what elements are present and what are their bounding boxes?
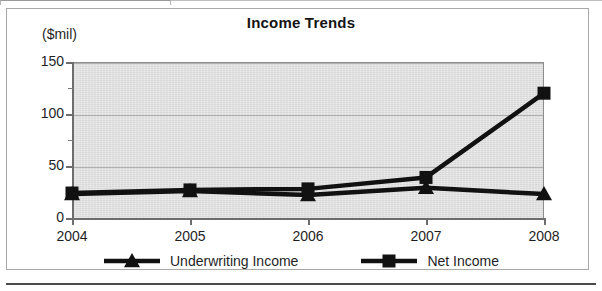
- x-axis-tick-label: 2004: [42, 228, 102, 244]
- gridline: [72, 63, 543, 64]
- x-axis-tick: [426, 218, 428, 225]
- gridline: [72, 115, 543, 116]
- y-axis-tick-label: 100: [0, 105, 64, 121]
- x-axis-tick-label: 2007: [396, 228, 456, 244]
- x-axis-tick-label: 2005: [160, 228, 220, 244]
- page-edge-artifact-right: [171, 0, 602, 2]
- plot-area: [72, 62, 544, 218]
- legend-label: Underwriting Income: [170, 253, 298, 269]
- y-axis-tick: [66, 166, 73, 168]
- y-axis-minor-tick: [68, 140, 73, 141]
- data-point-marker-square: [383, 255, 396, 268]
- legend-label: Net Income: [427, 253, 499, 269]
- x-axis-tick: [72, 218, 74, 225]
- x-axis-tick: [544, 218, 546, 225]
- legend-item: Underwriting Income: [103, 252, 298, 270]
- page-edge-artifact-left: [0, 0, 171, 5]
- bottom-divider-rule: [6, 283, 596, 285]
- x-axis-tick-label: 2008: [514, 228, 574, 244]
- plot-background-texture: [72, 63, 543, 218]
- y-axis-tick-label: 50: [0, 157, 64, 173]
- legend-item: Net Income: [360, 252, 499, 270]
- x-axis-tick-label: 2006: [278, 228, 338, 244]
- chart-legend: Underwriting IncomeNet Income: [0, 252, 602, 270]
- y-axis-tick-label: 150: [0, 53, 64, 69]
- x-axis-tick: [190, 218, 192, 225]
- y-axis-unit-label: ($mil): [42, 26, 77, 42]
- y-axis-tick-label: 0: [0, 209, 64, 225]
- chart-title: Income Trends: [0, 14, 602, 31]
- y-axis-minor-tick: [68, 192, 73, 193]
- y-axis-tick: [66, 62, 73, 64]
- gridline: [72, 167, 543, 168]
- legend-swatch-triangle: [103, 252, 161, 270]
- y-axis-tick: [66, 114, 73, 116]
- x-axis-tick: [308, 218, 310, 225]
- y-axis-minor-tick: [68, 88, 73, 89]
- legend-swatch-square: [360, 252, 418, 270]
